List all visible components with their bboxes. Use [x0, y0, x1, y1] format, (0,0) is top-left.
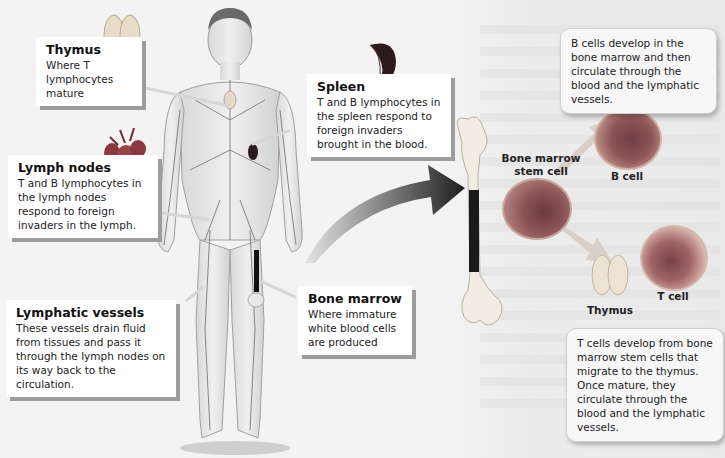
info-box-t-cells: T cells develop from bone marrow stem ce… [566, 328, 724, 442]
femur-bone-icon [450, 115, 510, 330]
callout-lymphatic-vessels-text: These vessels drain fluid from tissues a… [16, 321, 168, 391]
thymus-small-icon [590, 250, 630, 300]
callout-bone-marrow: Bone marrow Where immature white blood c… [298, 286, 412, 355]
stem-cell-image [502, 178, 572, 240]
t-cell-image [640, 225, 708, 291]
callout-lymph-nodes-text: T and B lymphocytes in the lymph nodes r… [18, 176, 150, 232]
callout-lymph-nodes: Lymph nodes T and B lymphocytes in the l… [8, 155, 158, 238]
label-b-cell: B cell [602, 170, 652, 183]
curved-arrow-icon [300, 145, 470, 265]
callout-bone-marrow-text: Where immature white blood cells are pro… [308, 307, 404, 349]
callout-thymus-text: Where T lymphocytes mature [46, 58, 134, 100]
callout-lymphatic-vessels-title: Lymphatic vessels [16, 305, 168, 321]
callout-thymus-title: Thymus [46, 42, 134, 58]
callout-spleen-text: T and B lymphocytes in the spleen respon… [317, 95, 443, 151]
callout-lymphatic-vessels: Lymphatic vessels These vessels drain fl… [6, 300, 176, 397]
b-cell-image [594, 108, 662, 170]
callout-lymph-nodes-title: Lymph nodes [18, 160, 150, 176]
callout-thymus: Thymus Where T lymphocytes mature [36, 37, 142, 106]
callout-spleen-title: Spleen [317, 79, 443, 95]
callout-bone-marrow-title: Bone marrow [308, 291, 404, 307]
label-thymus: Thymus [585, 304, 635, 317]
info-box-b-cells: B cells develop in the bone marrow and t… [560, 28, 717, 114]
label-stem-cell: Bone marrow stem cell [496, 152, 586, 178]
label-t-cell: T cell [648, 290, 698, 303]
